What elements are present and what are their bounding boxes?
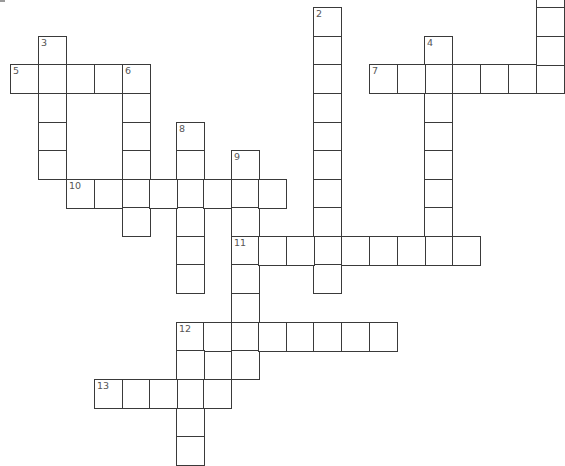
- grid-cell[interactable]: 3: [38, 36, 67, 66]
- grid-cell[interactable]: [149, 179, 178, 209]
- grid-cell[interactable]: [313, 150, 342, 180]
- grid-cell[interactable]: [203, 179, 232, 209]
- grid-cell[interactable]: [258, 236, 287, 266]
- grid-cell[interactable]: [94, 64, 123, 94]
- grid-cell[interactable]: [231, 350, 260, 380]
- grid-cell[interactable]: [176, 379, 205, 409]
- grid-cell[interactable]: [38, 93, 67, 123]
- grid-cell[interactable]: 6: [122, 64, 151, 94]
- grid-cell[interactable]: [424, 236, 453, 266]
- grid-cell[interactable]: [397, 64, 426, 94]
- grid-cell[interactable]: [313, 122, 342, 152]
- grid-cell[interactable]: 7: [369, 64, 398, 94]
- clue-number: 11: [234, 238, 246, 248]
- grid-cell[interactable]: [38, 64, 67, 94]
- grid-cell[interactable]: [176, 150, 205, 180]
- grid-cell[interactable]: [424, 179, 453, 209]
- grid-cell[interactable]: [176, 236, 205, 266]
- grid-cell[interactable]: 12: [176, 322, 205, 352]
- grid-cell[interactable]: 9: [231, 150, 260, 180]
- grid-cell[interactable]: [258, 179, 287, 209]
- grid-cell[interactable]: [313, 93, 342, 123]
- grid-cell[interactable]: [122, 207, 151, 237]
- grid-cell[interactable]: [508, 64, 537, 94]
- grid-cell[interactable]: [480, 64, 509, 94]
- grid-cell[interactable]: [203, 379, 232, 409]
- clue-number: 3: [41, 38, 47, 48]
- grid-cell[interactable]: [397, 236, 426, 266]
- grid-cell[interactable]: [536, 7, 565, 37]
- grid-cell[interactable]: [66, 64, 95, 94]
- clue-number: 2: [316, 9, 322, 19]
- clue-number: 12: [179, 324, 191, 334]
- grid-cell[interactable]: 5: [10, 64, 39, 94]
- grid-cell[interactable]: [313, 322, 342, 352]
- grid-cell[interactable]: [536, 64, 565, 94]
- grid-cell[interactable]: [369, 322, 398, 352]
- clue-number: 4: [427, 38, 433, 48]
- grid-cell[interactable]: [149, 379, 178, 409]
- grid-cell[interactable]: [122, 179, 151, 209]
- grid-cell[interactable]: [341, 236, 370, 266]
- grid-cell[interactable]: [231, 207, 260, 237]
- grid-cell[interactable]: [176, 436, 205, 466]
- grid-cell[interactable]: [231, 322, 260, 352]
- grid-cell[interactable]: [452, 236, 481, 266]
- grid-cell[interactable]: [231, 179, 260, 209]
- grid-cell[interactable]: [176, 264, 205, 294]
- clue-number: 6: [125, 66, 131, 76]
- grid-cell[interactable]: [536, 36, 565, 66]
- grid-cell[interactable]: [122, 122, 151, 152]
- grid-cell[interactable]: 13: [94, 379, 123, 409]
- grid-cell[interactable]: [424, 207, 453, 237]
- grid-cell[interactable]: [424, 93, 453, 123]
- grid-cell[interactable]: [176, 350, 205, 380]
- grid-cell[interactable]: [424, 150, 453, 180]
- grid-cell[interactable]: [313, 36, 342, 66]
- clue-number: 7: [372, 66, 378, 76]
- grid-cell[interactable]: [122, 150, 151, 180]
- grid-cell[interactable]: 11: [231, 236, 260, 266]
- grid-cell[interactable]: 8: [176, 122, 205, 152]
- grid-cell[interactable]: 4: [424, 36, 453, 66]
- grid-cell[interactable]: [313, 207, 342, 237]
- grid-cell[interactable]: [258, 322, 287, 352]
- grid-cell[interactable]: [176, 179, 205, 209]
- grid-cell[interactable]: [286, 236, 315, 266]
- clue-number: 8: [179, 124, 185, 134]
- grid-cell[interactable]: [313, 64, 342, 94]
- grid-cell[interactable]: [313, 179, 342, 209]
- grid-cell[interactable]: [341, 322, 370, 352]
- grid-cell[interactable]: [203, 322, 232, 352]
- grid-cell[interactable]: [369, 236, 398, 266]
- scan-artifact: [0, 0, 5, 2]
- grid-cell[interactable]: [176, 408, 205, 438]
- clue-number: 9: [234, 152, 240, 162]
- grid-cell[interactable]: [313, 236, 342, 266]
- grid-cell[interactable]: [231, 293, 260, 323]
- grid-cell[interactable]: [38, 122, 67, 152]
- grid-cell[interactable]: [122, 379, 151, 409]
- grid-cell[interactable]: [286, 322, 315, 352]
- grid-cell[interactable]: [452, 64, 481, 94]
- grid-cell[interactable]: [38, 150, 67, 180]
- grid-cell[interactable]: [176, 207, 205, 237]
- grid-cell[interactable]: 2: [313, 7, 342, 37]
- grid-cell[interactable]: [231, 264, 260, 294]
- clue-number: 5: [13, 66, 19, 76]
- clue-number: 13: [97, 381, 109, 391]
- grid-cell[interactable]: 10: [66, 179, 95, 209]
- grid-cell[interactable]: [122, 93, 151, 123]
- grid-cell[interactable]: [424, 122, 453, 152]
- clue-number: 10: [69, 181, 81, 191]
- grid-cell[interactable]: [313, 264, 342, 294]
- grid-cell[interactable]: [94, 179, 123, 209]
- grid-cell[interactable]: [424, 64, 453, 94]
